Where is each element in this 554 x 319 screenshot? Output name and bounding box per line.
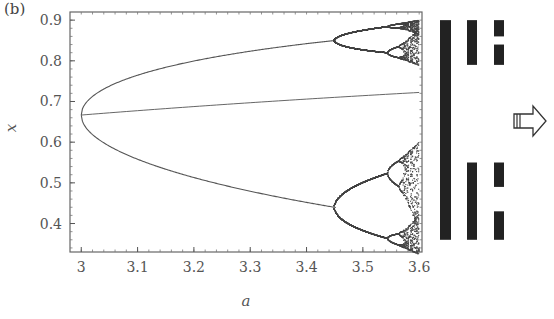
attractor-point: [405, 173, 406, 174]
attractor-point: [417, 160, 418, 161]
x-axis-title: a: [242, 292, 251, 310]
attractor-point: [413, 168, 414, 169]
attractor-point: [411, 243, 412, 244]
attractor-point: [418, 222, 419, 223]
attractor-point: [388, 176, 389, 177]
attractor-point: [403, 173, 404, 174]
attractor-point: [405, 186, 406, 187]
y-tick-label: 0.6: [40, 134, 62, 150]
attractor-point: [418, 250, 419, 251]
attractor-point: [416, 60, 417, 61]
attractor-point: [403, 163, 404, 164]
attractor-point: [407, 52, 408, 53]
attractor-point: [411, 176, 412, 177]
attractor-point: [403, 193, 404, 194]
attractor-point: [412, 190, 413, 191]
attractor-point: [404, 190, 405, 191]
attractor-point: [412, 28, 413, 29]
attractor-point: [407, 43, 408, 44]
x-tick-label: 3.2: [183, 259, 205, 275]
attractor-point: [417, 247, 418, 248]
attractor-point: [414, 239, 415, 240]
attractor-point: [412, 22, 413, 23]
attractor-point: [411, 199, 412, 200]
attractor-point: [414, 49, 415, 50]
attractor-point: [418, 150, 419, 151]
attractor-point: [413, 182, 414, 183]
attractor-point: [403, 240, 404, 241]
attractor-point: [407, 238, 408, 239]
attractor-point: [407, 166, 408, 167]
attractor-point: [413, 226, 414, 227]
attractor-point: [418, 235, 419, 236]
attractor-point: [407, 187, 408, 188]
attractor-point: [407, 27, 408, 28]
attractor-point: [413, 55, 414, 56]
attractor-point: [400, 182, 401, 183]
attractor-point: [417, 197, 418, 198]
attractor-point: [405, 195, 406, 196]
attractor-point: [403, 49, 404, 50]
attractor-point: [411, 58, 412, 59]
attractor-point: [408, 39, 409, 40]
attractor-point: [417, 148, 418, 149]
attractor-point: [405, 45, 406, 46]
attractor-point: [417, 25, 418, 26]
attractor-point: [412, 152, 413, 153]
attractor-point: [335, 211, 336, 212]
attractor-point: [410, 53, 411, 54]
attractor-point: [408, 170, 409, 171]
attractor-point: [412, 212, 413, 213]
attractor-point: [411, 26, 412, 27]
attractor-point: [411, 237, 412, 238]
attractor-point: [412, 228, 413, 229]
attractor-point: [413, 229, 414, 230]
attractor-point: [418, 153, 419, 154]
attractor-point: [407, 49, 408, 50]
attractor-point: [411, 45, 412, 46]
attractor-point: [407, 170, 408, 171]
attractor-point: [409, 185, 410, 186]
attractor-point: [413, 166, 414, 167]
attractor-point: [411, 165, 412, 166]
attractor-point: [408, 175, 409, 176]
attractor-point: [412, 41, 413, 42]
attractor-point: [415, 48, 416, 49]
attractor-point: [404, 232, 405, 233]
attractor-point: [336, 213, 337, 214]
period2-upper-curve: [81, 40, 336, 115]
symbolic-bar: [494, 163, 504, 187]
y-tick-label: 0.5: [40, 175, 62, 191]
attractor-point: [411, 203, 412, 204]
attractor-point: [415, 186, 416, 187]
attractor-point: [414, 38, 415, 39]
attractor-point: [405, 184, 406, 185]
attractor-point: [414, 225, 415, 226]
attractor-point: [405, 43, 406, 44]
attractor-point: [412, 24, 413, 25]
attractor-point: [415, 223, 416, 224]
attractor-point: [415, 236, 416, 237]
attractor-point: [411, 161, 412, 162]
attractor-point: [404, 43, 405, 44]
attractor-point: [418, 221, 419, 222]
attractor-point: [417, 211, 418, 212]
attractor-point: [411, 50, 412, 51]
attractor-point: [415, 185, 416, 186]
attractor-point: [408, 155, 409, 156]
attractor-point: [418, 168, 419, 169]
attractor-point: [412, 52, 413, 53]
attractor-point: [408, 179, 409, 180]
attractor-point: [412, 248, 413, 249]
attractor-point: [411, 247, 412, 248]
attractor-point: [415, 169, 416, 170]
attractor-point: [403, 51, 404, 52]
attractor-point: [412, 39, 413, 40]
attractor-point: [418, 253, 419, 254]
attractor-point: [410, 243, 411, 244]
attractor-point: [403, 158, 404, 159]
attractor-point: [412, 35, 413, 36]
attractor-point: [418, 27, 419, 28]
attractor-point: [404, 157, 405, 158]
attractor-point: [411, 195, 412, 196]
